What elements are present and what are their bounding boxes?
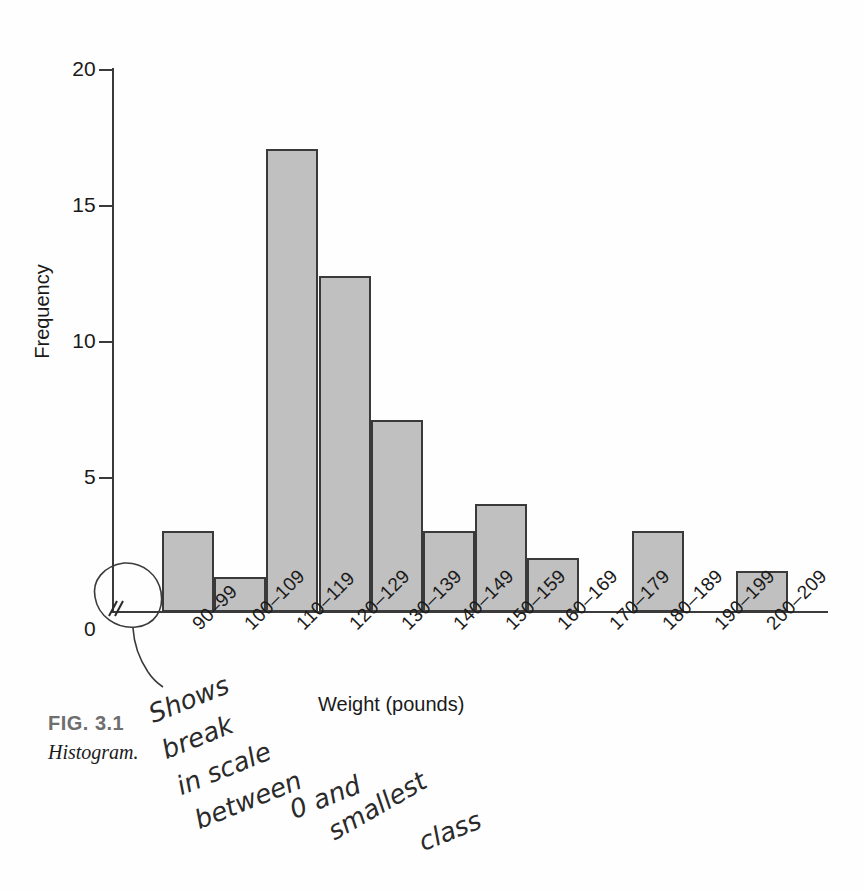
y-tick-label-5: 5	[84, 465, 96, 489]
y-tick-mark-20	[99, 69, 113, 71]
y-tick-label-15: 15	[72, 193, 96, 217]
y-tick-label-10: 10	[72, 329, 96, 353]
y-tick-label-20: 20	[72, 57, 96, 81]
y-tick-mark-10	[99, 341, 113, 343]
histogram-bar	[319, 276, 371, 612]
figure-page: 20 15 10 5 0 Frequency Weight (pounds) 9…	[0, 0, 864, 891]
x-axis-title: Weight (pounds)	[318, 693, 464, 716]
figure-title: Histogram.	[48, 741, 139, 764]
figure-number: FIG. 3.1	[48, 712, 139, 735]
y-tick-mark-5	[99, 477, 113, 479]
scale-break-icon	[104, 594, 134, 624]
histogram-bar	[266, 149, 318, 612]
figure-caption: FIG. 3.1 Histogram.	[48, 712, 139, 764]
y-tick-mark-15	[99, 205, 113, 207]
y-tick-label-0: 0	[84, 617, 96, 641]
y-axis-title: Frequency	[31, 242, 54, 382]
